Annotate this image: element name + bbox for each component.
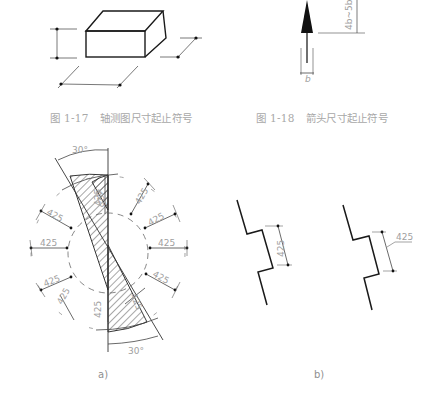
svg-text:425: 425 <box>151 269 171 286</box>
svg-text:425: 425 <box>158 238 175 248</box>
svg-text:425: 425 <box>276 240 286 257</box>
subfigure-label-a: a) <box>98 369 108 380</box>
svg-text:425: 425 <box>133 186 150 206</box>
svg-text:425: 425 <box>93 301 103 318</box>
arrow-symbol-figure: 4b~5b b <box>300 0 365 84</box>
figure-caption-1-18: 图 1-18 箭头尺寸起止符号 <box>256 110 388 125</box>
svg-text:30°: 30° <box>128 346 144 356</box>
figure-number: 图 1-18 <box>256 112 295 124</box>
svg-text:b: b <box>305 74 311 84</box>
figure-caption-1-17: 图 1-17 轴测图尺寸起止符号 <box>50 110 192 125</box>
stepped-line-figure: 425 425 <box>237 200 413 310</box>
svg-text:425: 425 <box>146 211 166 228</box>
svg-text:4b~5b: 4b~5b <box>344 0 354 30</box>
radial-dimension-figure: 425 425 425 425 425 425 425 425 425 425 … <box>30 145 196 356</box>
figure-number: 图 1-17 <box>50 112 89 124</box>
figure-title: 轴测图尺寸起止符号 <box>100 112 193 124</box>
subfigure-label-b: b) <box>314 369 324 380</box>
svg-text:425: 425 <box>40 238 57 248</box>
svg-text:425: 425 <box>45 207 65 224</box>
svg-text:425: 425 <box>42 273 62 289</box>
svg-text:425: 425 <box>55 286 72 306</box>
isometric-box-figure <box>50 11 202 88</box>
svg-text:30°: 30° <box>72 145 88 155</box>
drawing-canvas: 4b~5b b <box>0 0 433 395</box>
svg-text:425: 425 <box>396 232 413 242</box>
figure-title: 箭头尺寸起止符号 <box>306 112 388 124</box>
